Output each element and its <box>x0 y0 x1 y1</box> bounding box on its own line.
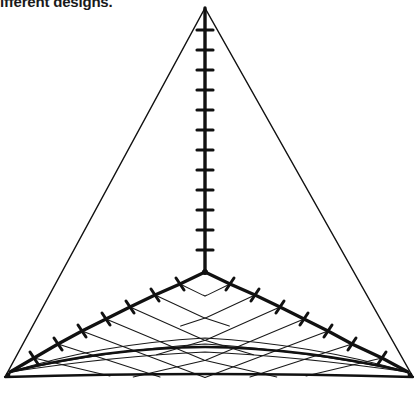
corner-anchor-left <box>6 373 11 378</box>
figure-page: ifferent designs. <box>0 0 420 415</box>
crown-joint <box>202 269 207 274</box>
ridge-node-ticks <box>30 278 386 364</box>
outer-triangle <box>5 8 413 377</box>
ridge-cable-right <box>205 272 408 372</box>
cable-net-figure <box>0 0 420 415</box>
crown-joint-node <box>202 269 207 274</box>
mesh-cable <box>181 295 255 326</box>
outer-triangle-left-edge <box>5 8 205 377</box>
mesh-sag-cable <box>10 352 408 372</box>
net-mesh <box>10 284 408 378</box>
mesh-cable <box>155 295 229 326</box>
corner-anchor-right <box>408 373 413 378</box>
